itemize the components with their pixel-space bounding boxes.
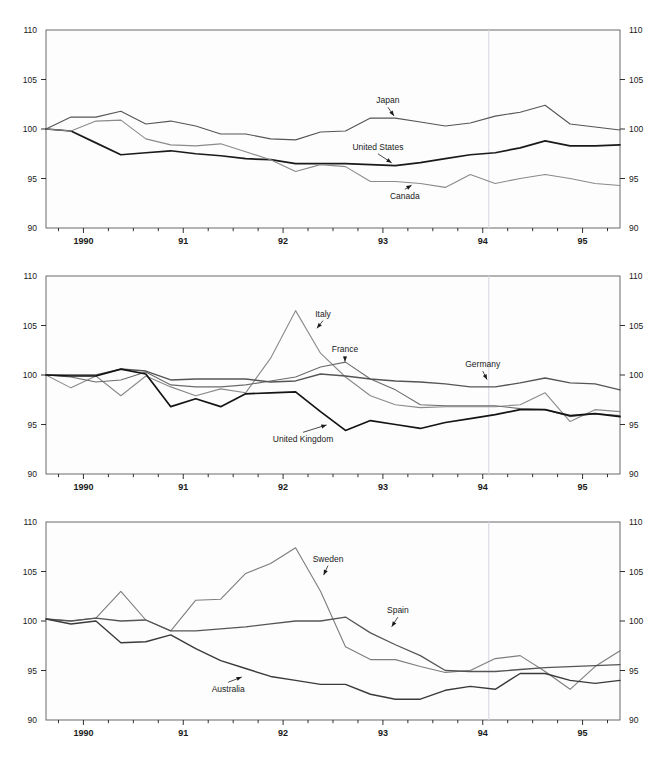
- x-year-label: 94: [478, 728, 488, 738]
- series-label-united-states: United States: [352, 142, 403, 152]
- y-tick-label-left: 100: [23, 616, 37, 626]
- y-tick-label-left: 90: [28, 469, 38, 479]
- chart-panel-2: 9090959510010010510511011019909192939495…: [0, 268, 667, 508]
- series-label-germany: Germany: [465, 359, 501, 369]
- y-tick-label-left: 90: [28, 715, 38, 725]
- y-tick-label-left: 110: [23, 25, 37, 35]
- x-year-label: 93: [378, 236, 388, 246]
- series-label-united-kingdom: United Kingdom: [273, 434, 333, 444]
- y-tick-label-right: 95: [629, 666, 639, 676]
- x-year-label: 92: [278, 482, 288, 492]
- x-year-label: 92: [278, 728, 288, 738]
- chart-panel-3: 9090959510010010510511011019909192939495…: [0, 514, 667, 762]
- series-label-sweden: Sweden: [313, 554, 344, 564]
- series-label-japan: Japan: [376, 95, 399, 105]
- y-tick-label-right: 105: [629, 567, 643, 577]
- x-year-label: 91: [178, 482, 188, 492]
- series-label-spain: Spain: [387, 605, 409, 615]
- y-tick-label-left: 95: [28, 666, 38, 676]
- y-tick-label-right: 95: [629, 420, 639, 430]
- panel-1-canvas: 9090959510010010510511011019909192939495…: [0, 22, 667, 262]
- y-tick-label-right: 110: [629, 25, 643, 35]
- series-label-italy: Italy: [315, 309, 331, 319]
- y-tick-label-left: 105: [23, 321, 37, 331]
- y-tick-label-right: 95: [629, 174, 639, 184]
- x-year-label: 1990: [73, 482, 93, 492]
- x-year-label: 95: [578, 482, 588, 492]
- series-label-canada: Canada: [390, 191, 420, 201]
- x-year-label: 93: [378, 482, 388, 492]
- x-year-label: 1990: [73, 236, 93, 246]
- x-year-label: 92: [278, 236, 288, 246]
- x-year-label: 95: [578, 728, 588, 738]
- y-tick-label-left: 110: [23, 271, 37, 281]
- panel-2-canvas: 9090959510010010510511011019909192939495…: [0, 268, 667, 508]
- y-tick-label-right: 90: [629, 715, 639, 725]
- series-label-france: France: [332, 344, 359, 354]
- y-tick-label-left: 95: [28, 420, 38, 430]
- y-tick-label-right: 110: [629, 271, 643, 281]
- panel-3-canvas: 9090959510010010510511011019909192939495…: [0, 514, 667, 762]
- y-tick-label-left: 95: [28, 174, 38, 184]
- y-tick-label-right: 105: [629, 75, 643, 85]
- x-year-label: 95: [578, 236, 588, 246]
- y-tick-label-right: 100: [629, 370, 643, 380]
- figure-root: 9090959510010010510511011019909192939495…: [0, 0, 667, 776]
- y-tick-label-right: 100: [629, 124, 643, 134]
- y-tick-label-left: 110: [23, 517, 37, 527]
- y-tick-label-right: 90: [629, 223, 639, 233]
- x-year-label: 91: [178, 236, 188, 246]
- y-tick-label-left: 100: [23, 124, 37, 134]
- x-year-label: 1990: [73, 728, 93, 738]
- x-year-label: 91: [178, 728, 188, 738]
- y-tick-label-right: 90: [629, 469, 639, 479]
- x-year-label: 94: [478, 482, 488, 492]
- series-label-australia: Australia: [212, 684, 245, 694]
- y-tick-label-left: 105: [23, 567, 37, 577]
- y-tick-label-left: 90: [28, 223, 38, 233]
- y-tick-label-left: 105: [23, 75, 37, 85]
- y-tick-label-right: 100: [629, 616, 643, 626]
- y-tick-label-left: 100: [23, 370, 37, 380]
- x-year-label: 93: [378, 728, 388, 738]
- chart-panel-1: 9090959510010010510511011019909192939495…: [0, 22, 667, 262]
- y-tick-label-right: 110: [629, 517, 643, 527]
- y-tick-label-right: 105: [629, 321, 643, 331]
- x-year-label: 94: [478, 236, 488, 246]
